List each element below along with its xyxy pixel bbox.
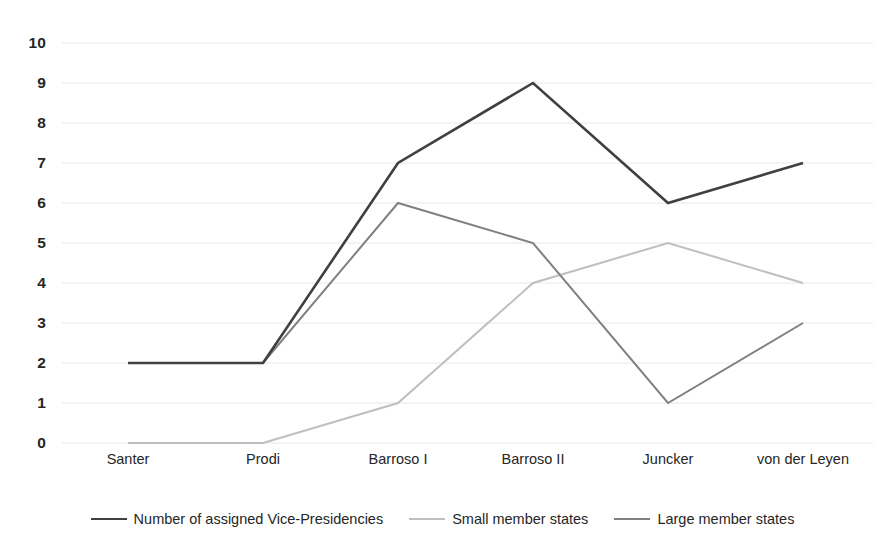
legend-item-label: Small member states <box>452 512 588 527</box>
y-axis-tick-label: 6 <box>2 195 46 211</box>
legend-item-label: Number of assigned Vice-Presidencies <box>134 512 384 527</box>
x-axis-tick-label: von der Leyen <box>723 452 883 468</box>
y-axis-tick-label: 0 <box>2 435 46 451</box>
data-series-group <box>128 83 803 443</box>
legend-item-label: Large member states <box>657 512 794 527</box>
y-axis-tick-label: 2 <box>2 355 46 371</box>
y-axis-tick-label: 8 <box>2 115 46 131</box>
y-axis-tick-label: 10 <box>2 35 46 51</box>
y-axis-tick-label: 3 <box>2 315 46 331</box>
y-axis-tick-label: 4 <box>2 275 46 291</box>
legend-item-1[interactable]: Number of assigned Vice-Presidencies <box>91 512 384 527</box>
y-axis-tick-label: 9 <box>2 75 46 91</box>
legend-item-2[interactable]: Small member states <box>409 512 588 527</box>
line-chart: 109876543210 SanterProdiBarroso IBarroso… <box>0 0 885 548</box>
legend-line-swatch-icon <box>409 518 445 520</box>
legend-item-3[interactable]: Large member states <box>614 512 794 527</box>
y-axis-tick-label: 7 <box>2 155 46 171</box>
y-axis-tick-label: 5 <box>2 235 46 251</box>
chart-legend: Number of assigned Vice-PresidenciesSmal… <box>0 505 885 533</box>
legend-line-swatch-icon <box>91 518 127 520</box>
gridlines <box>62 43 873 443</box>
series-line-2 <box>128 243 803 443</box>
legend-line-swatch-icon <box>614 518 650 520</box>
series-line-3 <box>128 203 803 403</box>
y-axis-tick-label: 1 <box>2 395 46 411</box>
